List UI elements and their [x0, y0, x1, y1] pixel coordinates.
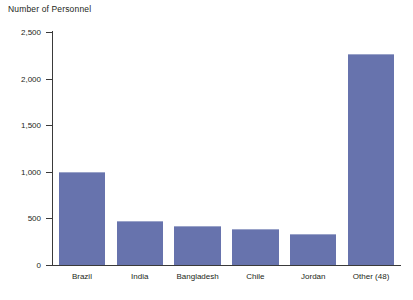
y-axis-tick	[46, 79, 53, 80]
y-axis-tick-label: 1,000	[21, 167, 41, 176]
y-axis-tick	[46, 125, 53, 126]
y-axis-tick-label: 0	[37, 261, 41, 270]
y-axis-tick	[46, 218, 53, 219]
x-axis-tick-label: Chile	[246, 272, 264, 281]
x-axis-tick-label: Jordan	[301, 272, 325, 281]
bar-chart: Number of Personnel 05001,0001,5002,0002…	[0, 0, 413, 300]
y-axis-tick-label: 500	[28, 214, 41, 223]
y-axis-tick	[46, 32, 53, 33]
bar	[232, 229, 278, 265]
y-axis-tick-label: 2,000	[21, 74, 41, 83]
x-axis-tick-label: Other (48)	[353, 272, 389, 281]
bar	[59, 172, 105, 265]
bar	[117, 221, 163, 265]
y-axis-tick-label: 1,500	[21, 121, 41, 130]
y-axis-tick-label: 2,500	[21, 28, 41, 37]
y-axis-tick	[46, 265, 53, 266]
bar	[174, 226, 220, 265]
bar	[348, 54, 394, 265]
x-axis-tick-label: India	[131, 272, 148, 281]
x-axis-line	[52, 265, 401, 266]
y-axis-tick	[46, 172, 53, 173]
chart-title: Number of Personnel	[8, 4, 91, 14]
x-axis-tick-label: Bangladesh	[176, 272, 218, 281]
bar	[290, 234, 336, 265]
x-axis-tick-label: Brazil	[72, 272, 92, 281]
plot-area	[53, 32, 400, 265]
